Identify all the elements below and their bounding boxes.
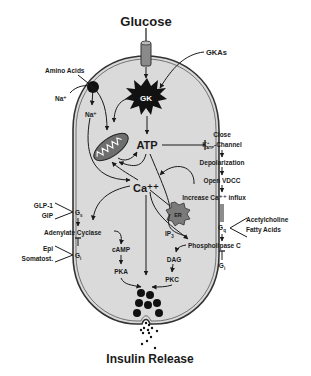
gkas-label: GKAs — [206, 48, 227, 57]
pka-label: PKA — [114, 268, 128, 275]
calcium-label: Ca⁺⁺ — [133, 182, 159, 194]
glp1-label: GLP-1 — [34, 202, 54, 209]
increase-ca-influx-label: Increase Ca⁺⁺ influx — [182, 194, 246, 201]
insulin-release-label: Insulin Release — [106, 352, 194, 366]
katp-channel-label: K+ATP-Channel — [202, 140, 242, 150]
released-insulin-dots — [140, 322, 158, 349]
beta-cell-diagram: Glucose GKAs Amino Acids Na⁺ Na⁺ GK ATP … — [0, 0, 311, 376]
pkc-label: PKC — [165, 276, 179, 283]
epi-label: Epi — [43, 245, 53, 253]
phospholipase-c-label: Phospholipase C — [188, 242, 241, 250]
acetylcholine-label: Acetylcholine — [246, 216, 289, 224]
er-label: ER — [174, 212, 182, 218]
depolarization-label: Depolarization — [200, 159, 245, 167]
dag-label: DAG — [167, 256, 181, 263]
adenylate-cyclase-label: Adenylate Cyclase — [44, 229, 102, 237]
glucose-label: Glucose — [120, 14, 171, 29]
somatost-label: Somatost. — [22, 255, 54, 262]
atp-label: ATP — [136, 139, 157, 151]
gi-right-label: Gi — [219, 262, 225, 271]
gip-label: GIP — [42, 212, 54, 219]
camp-label: cAMP — [112, 246, 131, 253]
na-out-label: Na⁺ — [55, 95, 67, 102]
amino-acids-label: Amino Acids — [45, 67, 85, 74]
close-label: Close — [213, 131, 231, 138]
open-vdcc-label: Open VDCC — [204, 177, 241, 185]
na-in-label: Na⁺ — [85, 111, 97, 118]
gk-label: GK — [140, 94, 152, 103]
fatty-acids-label: Fatty Acids — [246, 226, 281, 234]
